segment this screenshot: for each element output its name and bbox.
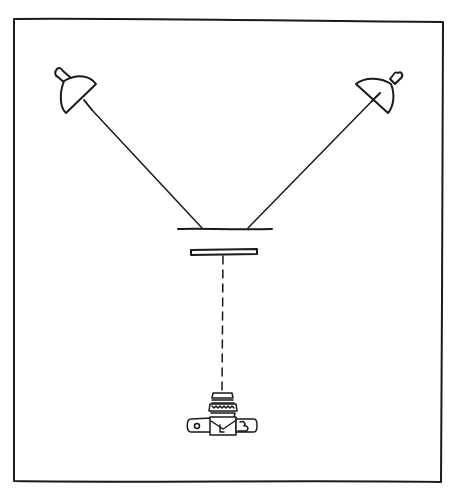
right-lamp-icon (356, 72, 402, 113)
right-lamp-beam (248, 101, 372, 228)
left-lamp-icon (55, 68, 96, 113)
copy-board (178, 229, 272, 230)
copy-stand-diagram (0, 0, 460, 498)
optical-axis (222, 256, 223, 392)
left-lamp-beam (92, 110, 202, 228)
glass-plate (191, 249, 257, 255)
camera-icon (187, 393, 257, 435)
